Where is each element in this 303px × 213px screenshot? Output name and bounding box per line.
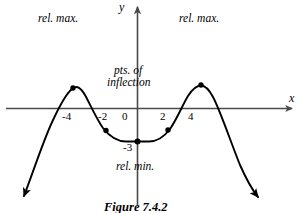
x-tick-label-2: 2 xyxy=(160,111,166,123)
rel-min-label: rel. min. xyxy=(116,160,154,172)
figure-caption: Figure 7.4.2 xyxy=(104,200,168,213)
x-tick-label-minus4: -4 xyxy=(62,111,71,123)
rel-max-right-point xyxy=(198,82,203,87)
rel-max-left-point xyxy=(70,85,75,90)
graph-figure xyxy=(0,0,303,213)
pts-of-inflection-label-line1: pts. of xyxy=(114,64,142,76)
rel-max-right-label: rel. max. xyxy=(179,12,219,24)
curve-path xyxy=(24,86,258,198)
inflection-point-right xyxy=(165,127,170,132)
y-tick-label-minus3: -3 xyxy=(123,142,132,154)
y-axis-label: y xyxy=(119,1,124,14)
x-tick-label-minus2: -2 xyxy=(98,111,107,123)
inflection-point-left xyxy=(103,128,108,133)
rel-max-left-label: rel. max. xyxy=(38,12,78,24)
rel-min-point xyxy=(135,139,141,145)
pts-of-inflection-label-line2: inflection xyxy=(107,76,150,88)
x-tick-label-4: 4 xyxy=(188,111,194,123)
x-tick-label-zero: 0 xyxy=(122,111,128,123)
x-axis-label: x xyxy=(289,92,294,105)
